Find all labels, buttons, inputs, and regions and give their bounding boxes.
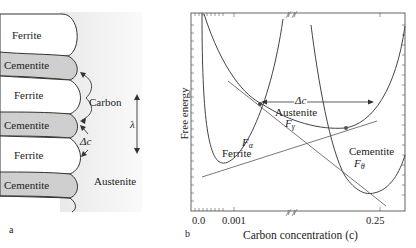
x-tick-025: 0.25 — [366, 216, 384, 227]
austenite-curve-label: Austenite — [275, 107, 317, 118]
panel-a-label: a — [9, 225, 13, 235]
carbon-label: Carbon — [89, 97, 121, 108]
layer-label-ferrite-3: Ferrite — [14, 150, 43, 161]
ferrite-curve-label: Ferrite — [222, 148, 251, 159]
y-axis-label: Free energy — [179, 74, 190, 154]
tangent-point-dot — [344, 126, 348, 130]
austenite-label: Austenite — [94, 176, 136, 187]
x-tick-0001: 0.001 — [222, 216, 246, 227]
x-tick-0: 0.0 — [192, 216, 205, 227]
layer-label-ferrite-2: Ferrite — [14, 90, 43, 101]
free-energy-curves — [150, 0, 416, 248]
panel-a-lamellar-structure: Ferrite Cementite Ferrite Cementite Ferr… — [0, 0, 150, 248]
panel-b-free-energy-plot: Δc Austenite Fγ Fα Ferrite Cementite Fθ … — [150, 0, 416, 248]
delta-c-value-label: Δc — [294, 95, 307, 106]
layer-label-cementite-3: Cementite — [4, 180, 49, 191]
x-axis-label: Carbon concentration (c) — [243, 230, 358, 242]
layer-label-ferrite-1: Ferrite — [12, 30, 41, 41]
delta-c-label: Δc — [80, 136, 91, 147]
panel-b-label: b — [185, 229, 190, 239]
cementite-symbol: Fθ — [354, 158, 365, 171]
tangent-point-dot — [258, 102, 262, 106]
lambda-label: λ — [130, 119, 135, 130]
cementite-curve-label: Cementite — [349, 146, 394, 157]
austenite-symbol: Fγ — [285, 118, 295, 131]
layer-label-cementite-2: Cementite — [4, 120, 49, 131]
layer-label-cementite-1: Cementite — [4, 60, 49, 71]
